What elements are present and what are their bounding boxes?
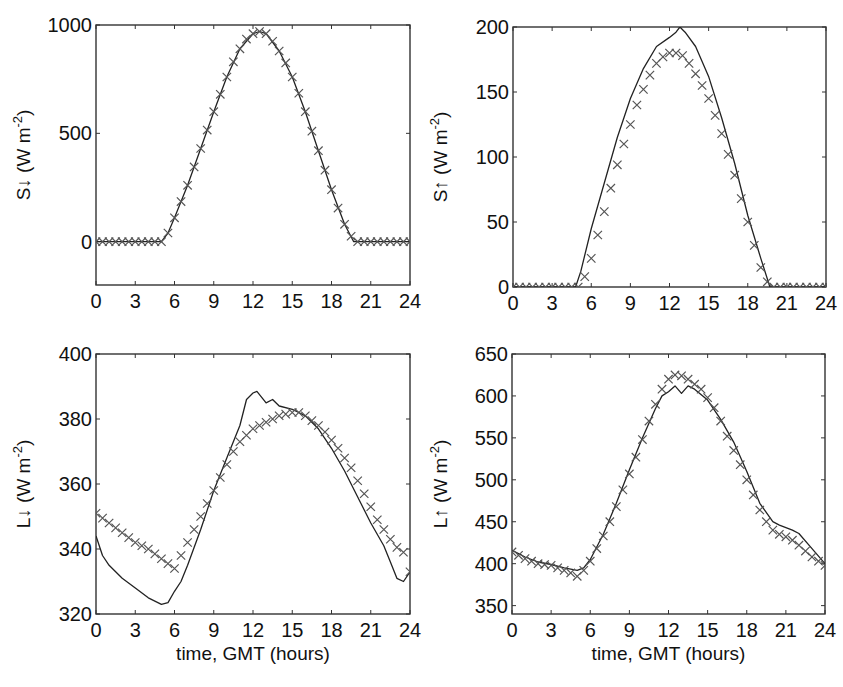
x-marker: [587, 254, 595, 262]
x-marker: [190, 525, 198, 533]
model-line: [513, 27, 826, 287]
four-panel-radiation-plot: 0369121518212405001000S↓ (W m-2)03691215…: [0, 0, 843, 687]
x-marker: [678, 51, 686, 59]
x-tick-label: 15: [697, 619, 719, 641]
x-marker: [711, 111, 719, 119]
x-tick-label: 18: [320, 619, 342, 641]
x-tick-label: 18: [737, 292, 759, 314]
x-marker: [744, 218, 752, 226]
x-marker: [275, 47, 283, 55]
x-marker: [249, 29, 257, 37]
panel-l-up: 03691215182124350400450500550600650L↑ (W…: [427, 343, 836, 664]
x-marker: [203, 499, 211, 507]
panel-l-down: 03691215182124320340360380400L↓ (W m-2)t…: [10, 343, 421, 664]
x-marker: [196, 512, 204, 520]
x-tick-label: 18: [320, 290, 342, 312]
x-marker: [177, 551, 185, 559]
x-marker: [282, 59, 290, 67]
x-marker: [262, 29, 270, 37]
y-tick-label: 100: [476, 146, 509, 168]
x-marker: [340, 220, 348, 228]
y-tick-label: 0: [81, 231, 92, 253]
x-marker: [613, 161, 621, 169]
x-marker: [691, 70, 699, 78]
x-tick-label: 15: [281, 290, 303, 312]
x-tick-label: 21: [776, 292, 798, 314]
x-tick-label: 6: [586, 292, 597, 314]
x-marker: [314, 146, 322, 154]
x-marker: [288, 73, 296, 81]
model-line: [96, 391, 410, 604]
x-marker: [581, 272, 589, 280]
x-marker: [321, 428, 329, 436]
x-marker: [183, 181, 191, 189]
x-marker: [164, 229, 172, 237]
x-marker: [190, 163, 198, 171]
y-tick-label: 400: [475, 553, 508, 575]
x-marker: [697, 385, 705, 393]
y-tick-label: 320: [59, 603, 92, 625]
x-tick-label: 21: [775, 619, 797, 641]
x-marker: [607, 184, 615, 192]
x-marker: [756, 506, 764, 514]
x-marker: [762, 518, 770, 526]
x-marker: [308, 416, 316, 424]
x-marker: [373, 516, 381, 524]
x-marker: [164, 559, 172, 567]
x-marker: [594, 231, 602, 239]
x-marker: [633, 101, 641, 109]
x-marker: [399, 548, 407, 556]
x-marker: [98, 514, 106, 522]
observed-markers: [92, 27, 414, 246]
x-tick-label: 21: [360, 290, 382, 312]
x-tick-label: 6: [169, 619, 180, 641]
x-tick-label: 0: [90, 619, 101, 641]
x-marker: [268, 37, 276, 45]
x-marker: [553, 564, 561, 572]
x-marker: [177, 197, 185, 205]
x-tick-label: 15: [281, 619, 303, 641]
y-tick-label: 200: [476, 16, 509, 38]
x-marker: [698, 81, 706, 89]
y-tick-label: 650: [475, 343, 508, 365]
x-tick-label: 0: [507, 292, 518, 314]
figure: 0369121518212405001000S↓ (W m-2)03691215…: [0, 0, 843, 687]
x-marker: [229, 58, 237, 66]
model-line: [96, 32, 410, 242]
x-tick-label: 12: [657, 619, 679, 641]
x-marker: [685, 59, 693, 67]
x-marker: [393, 543, 401, 551]
x-marker: [170, 214, 178, 222]
x-marker: [340, 454, 348, 462]
x-marker: [229, 447, 237, 455]
observed-markers: [508, 371, 829, 581]
y-axis-label: S↓ (W m-2): [10, 110, 34, 201]
x-marker: [236, 45, 244, 53]
x-tick-label: 0: [506, 619, 517, 641]
x-tick-label: 12: [658, 292, 680, 314]
x-tick-label: 24: [399, 290, 421, 312]
x-marker: [183, 538, 191, 546]
x-marker: [646, 71, 654, 79]
x-marker: [282, 410, 290, 418]
axes-frame: [512, 354, 825, 614]
x-marker: [639, 85, 647, 93]
x-tick-label: 18: [736, 619, 758, 641]
x-marker: [203, 126, 211, 134]
y-tick-label: 350: [475, 595, 508, 617]
x-marker: [301, 107, 309, 115]
x-tick-label: 3: [130, 619, 141, 641]
x-tick-label: 9: [208, 290, 219, 312]
x-marker: [380, 525, 388, 533]
x-marker: [125, 533, 133, 541]
x-marker: [690, 380, 698, 388]
x-marker: [170, 564, 178, 572]
x-marker: [308, 127, 316, 135]
y-tick-label: 50: [487, 211, 509, 233]
x-marker: [105, 519, 113, 527]
y-tick-label: 450: [475, 511, 508, 533]
x-axis-label: time, GMT (hours): [592, 643, 746, 664]
y-tick-label: 150: [476, 81, 509, 103]
x-tick-label: 15: [698, 292, 720, 314]
y-tick-label: 360: [59, 473, 92, 495]
